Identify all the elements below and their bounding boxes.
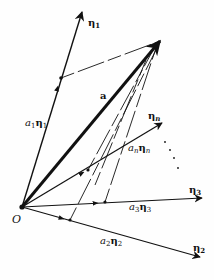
eta2-label: η2 (193, 243, 205, 254)
component-markers (19, 76, 106, 221)
ellipsis-dots (164, 141, 179, 169)
construction-lines (61, 41, 160, 220)
eta-n-label: ηn (148, 111, 160, 122)
origin-label: O (12, 214, 21, 225)
eta3-arrow (22, 198, 202, 207)
vector-a-label: a (100, 91, 106, 101)
eta2-arrow (22, 207, 200, 257)
eta-n-arrow (22, 123, 162, 207)
a1-eta1-label: a1η1 (25, 118, 47, 130)
a2-eta2-label: a2η2 (100, 236, 122, 248)
vector-decomposition-diagram: η1 a a1η1 ηn anηn η3 a3η3 O a2η2 η2 (0, 0, 214, 280)
eta1-label: η1 (88, 18, 100, 29)
a3-eta3-label: a3η3 (129, 202, 151, 214)
an-eta-n-label: anηn (128, 143, 150, 155)
eta3-label: η3 (189, 185, 201, 196)
eta1-arrow (22, 12, 82, 207)
